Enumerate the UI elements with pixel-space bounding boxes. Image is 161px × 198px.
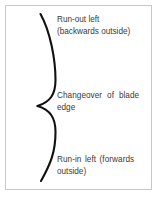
label-run-out-left-line2: (backwards outside) — [57, 26, 149, 38]
label-run-in-left-line1: Run-in left (forwards — [57, 154, 149, 166]
label-run-out-left: Run-out left (backwards outside) — [57, 14, 149, 37]
figure-frame: Run-out left (backwards outside) Changeo… — [5, 5, 152, 190]
label-run-in-left: Run-in left (forwards outside) — [57, 154, 149, 177]
label-run-out-left-line1: Run-out left — [57, 14, 149, 26]
label-changeover-line2: edge — [57, 102, 149, 114]
label-changeover-of-blade-edge: Changeover of blade edge — [57, 90, 149, 113]
label-changeover-line1: Changeover of blade — [57, 90, 149, 102]
label-column: Run-out left (backwards outside) Changeo… — [57, 6, 149, 191]
label-run-in-left-line2: outside) — [57, 166, 149, 178]
